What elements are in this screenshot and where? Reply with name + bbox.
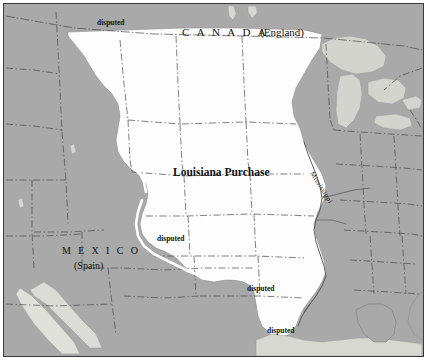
map-canvas [4, 4, 423, 356]
historical-map: disputed C A N A D A (England) Louisiana… [0, 0, 427, 360]
map-frame: disputed C A N A D A (England) Louisiana… [3, 3, 424, 357]
